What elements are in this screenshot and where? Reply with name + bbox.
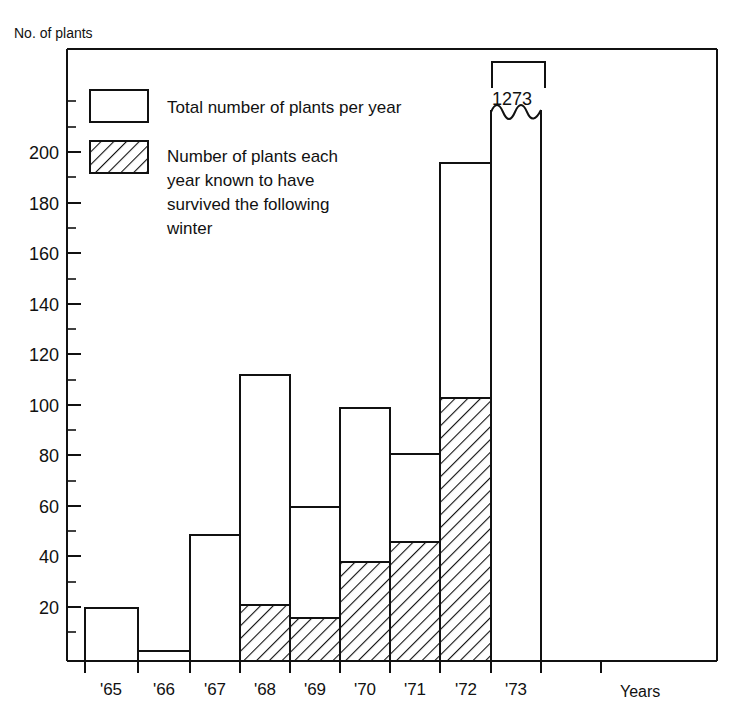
- bar-group-67: [190, 535, 240, 661]
- y-axis-title: No. of plants: [14, 25, 93, 41]
- y-tick-label-60: 60: [39, 497, 59, 517]
- bar-total-67: [190, 535, 240, 661]
- x-tick-label-65: '65: [100, 680, 122, 699]
- x-tick-label-73: '73: [505, 680, 527, 699]
- y-tick-label-140: 140: [29, 295, 59, 315]
- bar-group-69: [290, 507, 340, 661]
- legend-label-survived-line4: winter: [166, 219, 213, 238]
- bar-group-65: [85, 608, 138, 661]
- bar-total-66: [138, 651, 190, 661]
- y-tick-label-180: 180: [29, 194, 59, 214]
- bar-survived-68: [240, 605, 290, 661]
- bar-group-72: [440, 163, 491, 661]
- bar-survived-69: [290, 618, 340, 661]
- y-tick-label-200: 200: [29, 143, 59, 163]
- x-tick-label-71: '71: [404, 680, 426, 699]
- bar-survived-71: [390, 542, 440, 661]
- x-tick-label-72: '72: [455, 680, 477, 699]
- y-tick-label-120: 120: [29, 345, 59, 365]
- x-tick-label-66: '66: [153, 680, 175, 699]
- bar-survived-72: [440, 398, 491, 661]
- bar-total-65: [85, 608, 138, 661]
- bar-group-70: [340, 408, 390, 661]
- bar-survived-70: [340, 562, 390, 661]
- y-tick-label-40: 40: [39, 547, 59, 567]
- legend-label-survived-line2: year known to have: [167, 171, 314, 190]
- legend-label-total: Total number of plants per year: [167, 98, 402, 117]
- annotation-value-1273: 1273: [492, 89, 532, 109]
- legend-swatch-survived: [90, 141, 148, 173]
- legend-label-survived-line3: survived the following: [167, 195, 330, 214]
- y-tick-label-20: 20: [39, 598, 59, 618]
- y-tick-label-100: 100: [29, 396, 59, 416]
- bar-group-68: [240, 375, 290, 661]
- y-tick-label-160: 160: [29, 244, 59, 264]
- legend-swatch-total: [90, 90, 148, 122]
- x-tick-label-69: '69: [304, 680, 326, 699]
- y-tick-label-80: 80: [39, 446, 59, 466]
- x-tick-label-67: '67: [204, 680, 226, 699]
- bar-group-66: [138, 651, 190, 661]
- x-axis-title: Years: [620, 683, 660, 700]
- x-tick-label-68: '68: [254, 680, 276, 699]
- bar-group-71: [390, 454, 440, 661]
- x-tick-label-70: '70: [354, 680, 376, 699]
- chart-figure: No. of plants 20 40 60 80 100 120 140 16…: [0, 0, 751, 716]
- legend-label-survived-line1: Number of plants each: [167, 147, 338, 166]
- bar-chart-svg: No. of plants 20 40 60 80 100 120 140 16…: [0, 0, 751, 716]
